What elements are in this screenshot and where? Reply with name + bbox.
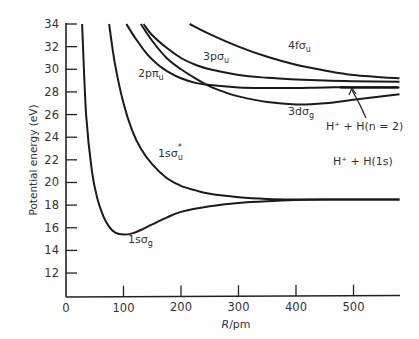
curve-1sσu* xyxy=(109,24,399,200)
y-tick-label: 12 xyxy=(44,266,59,280)
potential-energy-chart: 1214161820222426283032340100200300400500… xyxy=(0,0,419,339)
x-tick-label: 500 xyxy=(343,300,365,314)
curve-3dσg xyxy=(141,24,400,104)
y-tick-label: 24 xyxy=(44,130,59,144)
label-2pπu: 2pπu xyxy=(138,67,164,82)
y-tick-label: 26 xyxy=(44,108,59,122)
curve-labels: 1sσg1sσu*2pπu3dσg3pσu4fσu xyxy=(128,39,314,248)
y-tick-label: 32 xyxy=(44,40,59,54)
y-axis-label: Potential energy (eV) xyxy=(27,104,39,215)
y-tick-label: 18 xyxy=(44,198,59,212)
y-tick-label: 14 xyxy=(44,243,59,257)
y-tick-label: 28 xyxy=(44,85,59,99)
x-tick-label: 100 xyxy=(113,301,135,315)
y-tick-label: 22 xyxy=(44,153,59,167)
x-tick-label: 0 xyxy=(62,301,69,315)
label-3dσg: 3dσg xyxy=(288,105,314,120)
annotations: H⁺ + H(1s)H⁺ + H(n = 2) xyxy=(326,87,403,168)
x-axis-label: R/pm xyxy=(221,318,250,331)
label-1sσu*: 1sσu* xyxy=(158,143,183,162)
annotation-h-1s: H⁺ + H(1s) xyxy=(333,155,393,168)
y-tick-label: 16 xyxy=(44,221,59,235)
annotation-h-n2: H⁺ + H(n = 2) xyxy=(326,120,403,133)
label-4fσu: 4fσu xyxy=(288,39,311,54)
label-3pσu: 3pσu xyxy=(203,50,229,65)
annotation-arrow xyxy=(352,90,366,118)
curve-3pσu xyxy=(144,24,400,82)
label-1sσg: 1sσg xyxy=(128,233,153,248)
y-tick-label: 30 xyxy=(44,62,59,76)
y-tick-label: 34 xyxy=(44,17,59,31)
y-tick-label: 20 xyxy=(44,175,59,189)
x-tick-label: 200 xyxy=(170,300,192,314)
x-axis-line xyxy=(66,296,400,298)
x-tick-label: 300 xyxy=(228,300,250,314)
x-tick-label: 400 xyxy=(285,300,307,314)
